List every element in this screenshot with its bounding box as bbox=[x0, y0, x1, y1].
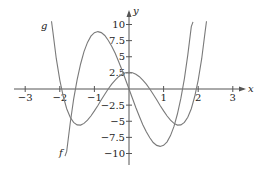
y-axis-label: y bbox=[132, 5, 139, 16]
y-tick-label: 7.5 bbox=[109, 35, 125, 46]
axes: x y bbox=[14, 5, 254, 165]
y-tick-label: −5 bbox=[110, 116, 125, 127]
chart: x y −3−2−1123 107.552.5−2.5−5−7.5−10 f g bbox=[0, 0, 260, 169]
y-tick-label: −7.5 bbox=[101, 132, 125, 143]
x-tick-label: 2 bbox=[195, 92, 201, 103]
y-tick-label: −2.5 bbox=[101, 100, 125, 111]
x-tick-label: 3 bbox=[230, 92, 236, 103]
x-tick-label: 1 bbox=[160, 92, 166, 103]
curve-label-g: g bbox=[41, 20, 47, 31]
x-axis-label: x bbox=[248, 83, 254, 94]
y-tick-label: 5 bbox=[119, 51, 125, 62]
curve-label-f: f bbox=[58, 147, 65, 158]
y-tick-label: 10 bbox=[112, 19, 125, 30]
y-axis-arrow-icon bbox=[127, 10, 132, 17]
x-tick-label: −3 bbox=[18, 92, 33, 103]
x-tick-label: −1 bbox=[87, 92, 102, 103]
y-tick-label: −10 bbox=[104, 148, 125, 159]
x-axis-arrow-icon bbox=[239, 87, 246, 92]
